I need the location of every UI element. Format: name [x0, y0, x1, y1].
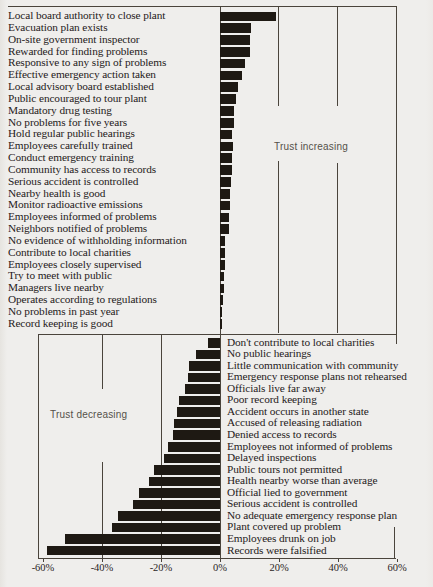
- bar-label: Denied access to records: [227, 429, 429, 441]
- bar-trust-increasing: [220, 59, 245, 69]
- trust-decreasing-annotation: Trust decreasing: [50, 409, 127, 420]
- bar-trust-decreasing: [149, 477, 220, 487]
- bar-trust-increasing: [220, 153, 232, 163]
- bar-trust-increasing: [220, 236, 225, 246]
- bar-label: Record keeping is good: [8, 318, 213, 330]
- bar-trust-decreasing: [65, 534, 220, 544]
- trust-increasing-annotation: Trust increasing: [274, 141, 348, 152]
- bar-label: Operates according to regulations: [8, 294, 213, 306]
- bar-trust-decreasing: [208, 338, 220, 348]
- bar-label: Records were falsified: [227, 545, 429, 557]
- bar-trust-decreasing: [133, 500, 220, 510]
- bar-label: Local advisory board established: [8, 81, 213, 93]
- bar-trust-increasing: [220, 284, 224, 294]
- x-axis-tick-label: 60%: [375, 562, 419, 575]
- gridline-20-upper: [278, 7, 279, 106]
- bar-label: No evidence of withholding information: [8, 235, 213, 247]
- bar-trust-increasing: [220, 94, 236, 104]
- bar-trust-increasing: [220, 272, 224, 282]
- bar-trust-decreasing: [112, 523, 220, 533]
- bar-trust-increasing: [220, 319, 222, 329]
- x-axis-tick-label: 40%: [316, 562, 360, 575]
- x-axis-tick-label: -40%: [80, 562, 124, 575]
- x-axis-tick-label: -60%: [21, 562, 65, 575]
- bar-trust-decreasing: [139, 488, 220, 498]
- bar-trust-decreasing: [196, 350, 220, 360]
- bar-label: Community has access to records: [8, 164, 213, 176]
- bar-trust-increasing: [220, 201, 230, 211]
- bar-trust-increasing: [220, 295, 223, 305]
- bar-label: Contribute to local charities: [8, 247, 213, 259]
- bar-trust-increasing: [220, 177, 231, 187]
- bottom-frame-top: [38, 334, 397, 335]
- bar-label: No public hearings: [227, 348, 429, 360]
- gridline-60: [396, 7, 397, 344]
- bar-label: Local board authority to close plant: [8, 10, 213, 22]
- bottom-frame-left: [38, 334, 39, 558]
- gridline-40-lower: [337, 163, 338, 333]
- bar-label: No problems in past year: [8, 306, 213, 318]
- bar-label: Neighbors notified of problems: [8, 223, 213, 235]
- bar-trust-decreasing: [174, 419, 220, 429]
- bar-trust-increasing: [220, 71, 242, 81]
- bar-trust-decreasing: [47, 546, 220, 556]
- bar-trust-increasing: [220, 189, 230, 199]
- bar-trust-decreasing: [185, 384, 220, 394]
- bar-trust-decreasing: [154, 465, 220, 475]
- x-axis: [38, 558, 396, 559]
- bar-trust-increasing: [220, 35, 250, 45]
- top-border: [8, 6, 397, 7]
- bar-trust-decreasing: [177, 407, 220, 417]
- bar-trust-increasing: [220, 23, 251, 33]
- bar-trust-decreasing: [188, 373, 220, 383]
- bar-trust-increasing: [220, 130, 232, 140]
- bar-trust-decreasing: [189, 361, 220, 371]
- bar-label: Mandatory drug testing: [8, 105, 213, 117]
- bar-trust-increasing: [220, 12, 276, 22]
- gridline-40-upper: [337, 7, 338, 106]
- bar-trust-increasing: [220, 248, 225, 258]
- bar-label: Responsive to any sign of problems: [8, 57, 213, 69]
- bar-trust-decreasing: [173, 430, 220, 440]
- bar-trust-increasing: [220, 260, 225, 270]
- bar-trust-decreasing: [168, 442, 220, 452]
- bar-trust-increasing: [220, 142, 233, 152]
- bar-trust-decreasing: [164, 454, 220, 464]
- bar-label: Conduct emergency training: [8, 152, 213, 164]
- bar-trust-increasing: [220, 213, 229, 223]
- bar-trust-increasing: [220, 165, 232, 175]
- bar-trust-increasing: [220, 106, 234, 116]
- gridline-20-lower: [278, 161, 279, 333]
- trust-bar-chart: Trust increasing Trust decreasing -60%-4…: [0, 0, 433, 587]
- bar-label: Public encouraged to tour plant: [8, 93, 213, 105]
- bar-trust-increasing: [220, 82, 238, 92]
- bar-label: Employees closely supervised: [8, 259, 213, 271]
- x-axis-tick-label: 0%: [198, 562, 242, 575]
- bar-trust-increasing: [220, 224, 229, 234]
- bar-label: Evacuation plan exists: [8, 22, 213, 34]
- bar-label: Delayed inspections: [227, 452, 429, 464]
- x-axis-tick-label: -20%: [139, 562, 183, 575]
- gridline-neg40-upper: [102, 335, 103, 389]
- bar-label: Serious accident is controlled: [8, 176, 213, 188]
- bar-trust-increasing: [220, 307, 222, 317]
- bar-trust-decreasing: [118, 511, 220, 521]
- zero-line-bottom: [220, 335, 221, 558]
- bar-trust-increasing: [220, 47, 250, 57]
- bar-label: On-site government inspector: [8, 34, 213, 46]
- bar-label: Employees drunk on job: [227, 533, 429, 545]
- x-axis-tick-label: 20%: [257, 562, 301, 575]
- bar-trust-decreasing: [179, 396, 220, 406]
- bar-trust-increasing: [220, 118, 234, 128]
